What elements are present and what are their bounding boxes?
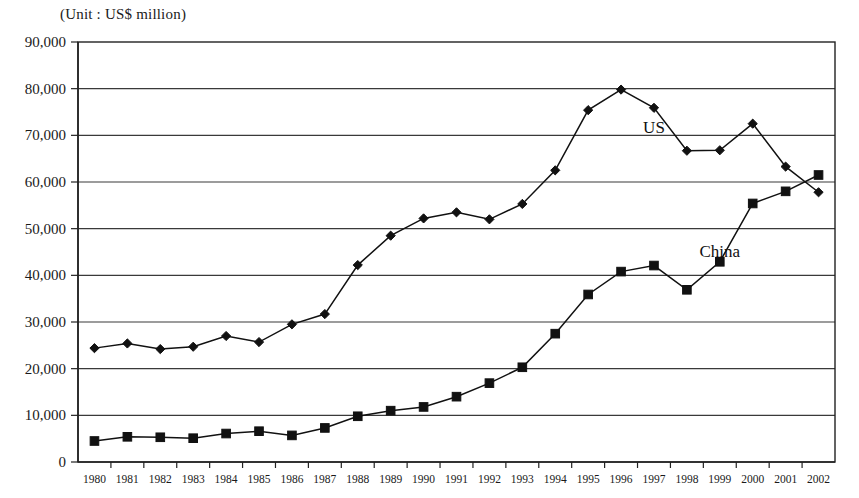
data-point-marker: US 1995: 75,400 — [584, 106, 593, 115]
data-point-marker: US 1983: 24,700 — [189, 342, 198, 351]
data-point-marker: China 2000: 55,400 — [748, 199, 757, 208]
y-tick-label: 10,000 — [25, 407, 66, 423]
x-tick-label: 1986 — [280, 473, 303, 485]
data-point-marker: China 1990: 11,800 — [419, 403, 428, 412]
data-point-marker: US 1986: 29,500 — [287, 320, 296, 329]
y-tick-label: 70,000 — [25, 127, 66, 143]
data-point-marker: China 1989: 11,000 — [386, 406, 395, 415]
data-point-marker: China 1994: 27,500 — [551, 329, 560, 338]
data-point-marker: China 1983: 5,100 — [189, 434, 198, 443]
data-point-marker: US 1987: 31,700 — [320, 309, 329, 318]
data-point-marker: US 1981: 25,400 — [123, 339, 132, 348]
x-tick-label: 1984 — [215, 473, 238, 485]
x-tick-label: 1990 — [412, 473, 435, 485]
x-tick-label: 1985 — [248, 473, 271, 485]
data-point-marker: US 1990: 52,200 — [419, 214, 428, 223]
data-point-marker: China 1988: 9,800 — [353, 412, 362, 421]
data-point-marker: China 1998: 36,900 — [683, 286, 692, 295]
x-tick-label: 1988 — [346, 473, 369, 485]
data-point-marker: China 1993: 20,300 — [518, 363, 527, 372]
y-tick-label: 40,000 — [25, 267, 66, 283]
x-tick-label: 1983 — [182, 473, 205, 485]
series-label-china: China — [699, 242, 740, 261]
data-point-marker: China 1992: 16,900 — [485, 379, 494, 388]
y-tick-label: 80,000 — [25, 81, 66, 97]
data-series-group: US 1980: 24,400US 1981: 25,400US 1982: 2… — [90, 85, 823, 445]
data-point-marker: China 1995: 35,900 — [584, 290, 593, 299]
x-tick-label: 1989 — [379, 473, 402, 485]
data-point-marker: China 1986: 5,700 — [288, 431, 297, 440]
data-point-marker: US 1985: 25,700 — [254, 337, 263, 346]
data-point-marker: China 1980: 4,500 — [90, 437, 99, 446]
data-point-marker: US 1980: 24,400 — [90, 344, 99, 353]
x-tick-label: 1997 — [642, 473, 665, 485]
data-point-marker: US 1992: 52,000 — [485, 215, 494, 224]
x-tick-label: 2000 — [741, 473, 764, 485]
data-point-marker: China 1997: 42,100 — [650, 261, 659, 270]
data-point-marker: China 1991: 14,000 — [452, 392, 461, 401]
x-tick-label: 1981 — [116, 473, 139, 485]
data-point-marker: US 1984: 27,000 — [222, 331, 231, 340]
y-axis-ticks: 010,00020,00030,00040,00050,00060,00070,… — [25, 34, 78, 470]
x-tick-label: 1999 — [708, 473, 731, 485]
x-tick-label: 1991 — [445, 473, 468, 485]
data-point-marker: China 1985: 6,600 — [255, 427, 264, 436]
x-tick-label: 1993 — [511, 473, 534, 485]
data-point-marker: China 1984: 6,100 — [222, 429, 231, 438]
x-axis-ticks: 1980198119821983198419851986198719881989… — [83, 462, 830, 485]
series-annotations: USChina — [643, 118, 740, 261]
x-tick-label: 1987 — [313, 473, 336, 485]
chart-container: (Unit : US$ million) 010,00020,00030,000… — [0, 0, 859, 498]
x-tick-label: 1996 — [610, 473, 633, 485]
series-label-us: US — [643, 118, 665, 137]
data-point-marker: China 1996: 40,800 — [617, 267, 626, 276]
data-point-marker: China 1982: 5,300 — [156, 433, 165, 442]
y-tick-label: 90,000 — [25, 34, 66, 50]
x-tick-label: 1982 — [149, 473, 172, 485]
x-tick-label: 1995 — [577, 473, 600, 485]
y-tick-label: 50,000 — [25, 221, 66, 237]
line-chart-plot: 010,00020,00030,00040,00050,00060,00070,… — [0, 0, 859, 498]
y-tick-label: 30,000 — [25, 314, 66, 330]
data-point-marker: China 1987: 7,300 — [321, 424, 330, 433]
series-us: US 1980: 24,400US 1981: 25,400US 1982: 2… — [90, 85, 823, 354]
data-point-marker: US 1991: 53,500 — [452, 208, 461, 217]
y-tick-label: 20,000 — [25, 361, 66, 377]
data-point-marker: China 2001: 58,000 — [781, 187, 790, 196]
data-point-marker: US 1996: 79,800 — [616, 85, 625, 94]
data-point-marker: China 2002: 61,500 — [814, 171, 823, 180]
x-tick-label: 2001 — [774, 473, 797, 485]
x-tick-label: 1994 — [544, 473, 567, 485]
series-line-us — [94, 90, 818, 349]
x-tick-label: 1998 — [675, 473, 698, 485]
y-tick-label: 60,000 — [25, 174, 66, 190]
y-tick-label: 0 — [59, 454, 67, 470]
x-tick-label: 1980 — [83, 473, 106, 485]
x-tick-label: 1992 — [478, 473, 501, 485]
x-tick-label: 2002 — [807, 473, 830, 485]
data-point-marker: US 1982: 24,200 — [156, 344, 165, 353]
data-point-marker: China 1981: 5,400 — [123, 433, 132, 442]
